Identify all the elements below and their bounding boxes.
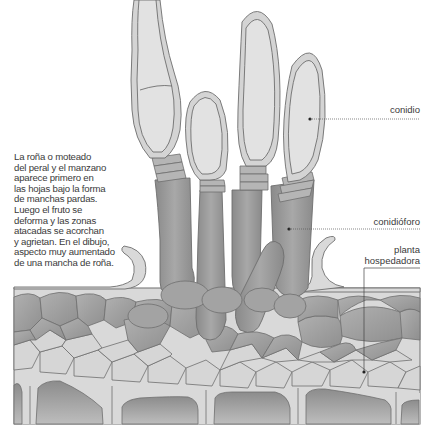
description-text: La roña o moteado del peral y el manzano… [14, 152, 134, 269]
label-planta-line1: planta [330, 244, 420, 255]
label-conidioforo: conidióforo [330, 216, 420, 227]
label-planta-hospedadora: planta hospedadora [330, 244, 420, 266]
conidia [131, 0, 325, 182]
scab-fungus-diagram: La roña o moteado del peral y el manzano… [0, 0, 424, 443]
description-line: Luego el fruto se [14, 205, 134, 216]
planta-pointer-dot [362, 370, 365, 373]
description-line: La roña o moteado [14, 152, 134, 163]
description-line: de una mancha de roña. [14, 258, 134, 269]
label-planta-line2: hospedadora [330, 255, 420, 266]
label-conidio: conidio [350, 104, 420, 115]
